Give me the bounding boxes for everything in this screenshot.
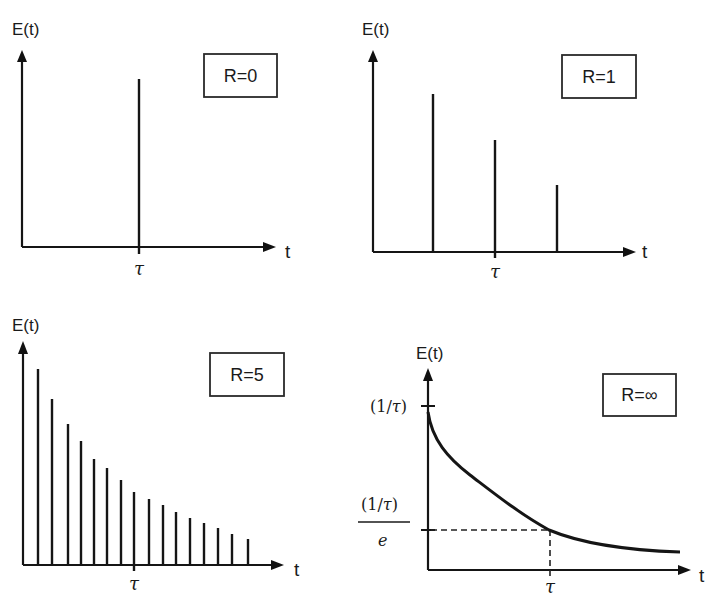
x-tick-tau: τ	[134, 258, 145, 279]
y-tick-frac-denominator: e	[378, 531, 387, 550]
y-axis-arrow-icon	[18, 341, 28, 354]
x-axis-label: t	[699, 565, 705, 586]
panel-rinf: E(t) t (1/τ) (1/τ) e τ R=∞	[358, 344, 705, 597]
legend-label: R=∞	[621, 385, 658, 405]
x-tick-tau: τ	[490, 261, 501, 282]
x-axis-label: t	[285, 241, 291, 262]
x-axis-arrow-icon	[263, 242, 276, 252]
legend-label: R=1	[582, 67, 616, 87]
legend-label: R=5	[230, 365, 264, 385]
x-axis-label: t	[294, 559, 300, 580]
y-axis-label: E(t)	[362, 20, 389, 39]
impulse-train	[38, 369, 248, 571]
y-axis-label: E(t)	[416, 344, 443, 363]
x-axis-arrow-icon	[271, 560, 284, 570]
y-axis-label: E(t)	[12, 316, 39, 335]
y-tick-label-top: (1/τ)	[370, 397, 407, 416]
y-tick-frac-numerator: (1/τ)	[361, 495, 398, 514]
panel-r1: E(t) t τ R=1	[362, 20, 648, 282]
panel-r5: E(t) t τ R=5	[12, 316, 300, 594]
panel-r0: E(t) t τ R=0	[12, 20, 291, 279]
x-axis-arrow-icon	[678, 565, 691, 575]
y-axis-arrow-icon	[17, 50, 27, 62]
x-tick-tau: τ	[129, 573, 140, 594]
x-axis-label: t	[642, 241, 648, 262]
y-axis-arrow-icon	[423, 368, 433, 381]
y-axis-arrow-icon	[368, 50, 378, 62]
rtd-figure: E(t) t τ R=0 E(t) t τ R=1 E(t) t	[0, 0, 724, 601]
y-axis-label: E(t)	[12, 20, 39, 39]
x-axis-arrow-icon	[623, 247, 636, 257]
exponential-decay-curve	[428, 412, 680, 552]
legend-label: R=0	[224, 66, 258, 86]
x-tick-tau: τ	[545, 576, 556, 597]
